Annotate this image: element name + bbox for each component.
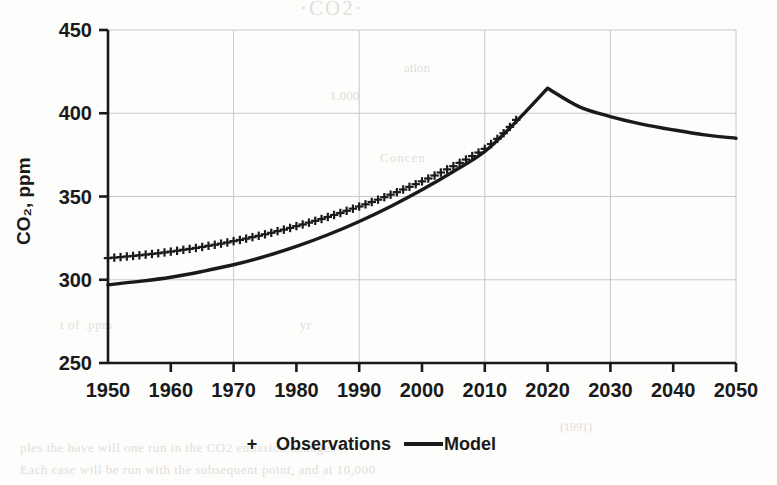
x-axis-ticks: 1950196019701980199020002010202020302040… — [86, 363, 759, 401]
observation-marker — [261, 230, 269, 238]
x-axis-tick-label: 1960 — [149, 379, 194, 401]
observation-marker — [280, 225, 288, 233]
observation-marker — [223, 238, 231, 246]
observation-marker — [198, 243, 206, 251]
x-axis-tick-label: 2050 — [714, 379, 759, 401]
legend-observations-label: Observations — [276, 434, 391, 454]
observation-marker — [217, 239, 225, 247]
co2-chart-figure: ·CO2· ation 1.000 Concen t of .ppm yr pl… — [0, 0, 777, 485]
observation-marker — [211, 241, 219, 249]
model-series-line — [108, 88, 736, 284]
y-axis-ticks: 250300350400450 — [59, 19, 108, 374]
gridlines — [108, 30, 736, 363]
observation-marker — [273, 227, 281, 235]
y-axis-tick-label: 400 — [59, 102, 92, 124]
x-axis-tick-label: 1980 — [274, 379, 319, 401]
observation-marker — [292, 222, 300, 230]
observation-marker — [229, 237, 237, 245]
observation-marker — [242, 234, 250, 242]
y-axis-title-text: CO₂, ppm — [13, 157, 34, 245]
y-axis-tick-label: 450 — [59, 19, 92, 41]
y-axis-title: CO₂, ppm — [13, 157, 34, 245]
observation-marker — [298, 220, 306, 228]
data-series — [104, 88, 736, 284]
x-axis-tick-label: 2000 — [400, 379, 445, 401]
observation-marker — [305, 218, 313, 226]
x-axis-tick-label: 2010 — [463, 379, 508, 401]
y-axis-tick-label: 300 — [59, 269, 92, 291]
x-axis-tick-label: 1970 — [211, 379, 256, 401]
y-axis-tick-label: 350 — [59, 186, 92, 208]
chart-legend: + Observations Model — [247, 434, 496, 454]
observation-marker — [255, 232, 263, 240]
observation-marker — [286, 224, 294, 232]
legend-observations-marker-icon: + — [247, 434, 258, 454]
x-axis-tick-label: 2020 — [525, 379, 570, 401]
x-axis-tick-label: 1990 — [337, 379, 382, 401]
observation-marker — [267, 229, 275, 237]
chart-canvas: 250300350400450 195019601970198019902000… — [0, 0, 777, 485]
observation-marker — [311, 217, 319, 225]
x-axis-tick-label: 2040 — [651, 379, 696, 401]
x-axis-tick-label: 2030 — [588, 379, 633, 401]
y-axis-tick-label: 250 — [59, 352, 92, 374]
observation-marker — [236, 236, 244, 244]
observation-marker — [248, 233, 256, 241]
x-axis-tick-label: 1950 — [86, 379, 131, 401]
legend-model-label: Model — [444, 434, 496, 454]
